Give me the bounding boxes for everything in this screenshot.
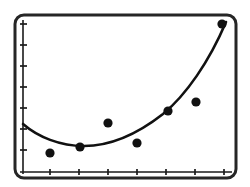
data-point [163, 106, 172, 115]
data-point [103, 118, 112, 127]
data-point [217, 19, 226, 28]
plot-background [0, 0, 250, 187]
data-point [75, 142, 84, 151]
data-point [45, 148, 54, 157]
data-point [191, 97, 200, 106]
data-point [132, 138, 141, 147]
calculator-screen [0, 0, 250, 187]
scatter-plot-with-regression-curve [0, 0, 250, 187]
